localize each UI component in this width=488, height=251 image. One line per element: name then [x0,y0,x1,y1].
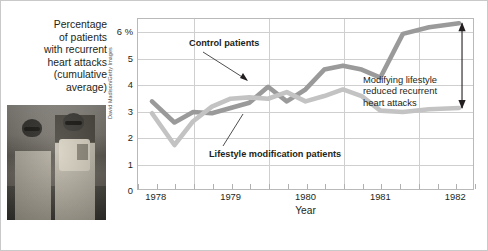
anglers-photo [7,105,106,220]
y-axis-tick-label: 4 [128,79,133,90]
photo-vignette [7,105,106,220]
annotation-modifying-lifestyle: Modifying lifestyle reduced recurrent he… [363,74,437,108]
chart-plot-area: Control patients Lifestyle modification … [137,18,474,190]
figure-caption: Percentage of patients with recurrent he… [5,19,107,95]
y-axis-tick-label: 2 [128,132,133,143]
caption-line: heart attacks [5,57,107,70]
leader-line-control [203,52,247,80]
y-axis-tick-label: 6 % [117,26,133,37]
y-axis-tick-label: 0 [128,185,133,196]
leader-arrowhead-control [240,73,248,81]
y-axis: 0123456 % [97,18,133,190]
minor-tick [475,184,476,189]
x-axis-tick-label: 1979 [220,191,241,202]
annotation-lifestyle-patients: Lifestyle modification patients [209,149,341,160]
annotation-line-1: Modifying lifestyle [363,74,437,85]
x-axis-tick-label: 1978 [145,191,166,202]
annotation-control-patients: Control patients [189,38,259,49]
y-axis-tick-label: 5 [128,52,133,63]
x-axis-title: Year [137,205,474,216]
caption-line: of patients [5,32,107,45]
caption-line: (cumulative [5,69,107,82]
caption-line: average) [5,82,107,95]
x-axis-tick-label: 1982 [445,191,466,202]
y-axis-tick-label: 3 [128,105,133,116]
caption-line: Percentage [5,19,107,32]
x-axis-tick-label: 1980 [295,191,316,202]
leader-line-lifestyle [223,114,243,146]
y-axis-tick-label: 1 [128,158,133,169]
caption-line: with recurrent [5,44,107,57]
annotation-line-3: heart attacks [363,97,437,108]
figure-container: Percentage of patients with recurrent he… [0,0,488,251]
annotation-line-2: reduced recurrent [363,85,437,96]
x-axis-tick-label: 1981 [370,191,391,202]
